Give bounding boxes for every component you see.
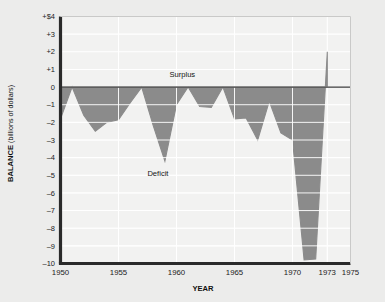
y-tick-label: –6 — [47, 189, 55, 198]
y-tick-label: –9 — [47, 242, 55, 251]
y-tick-label: +3 — [46, 30, 55, 39]
y-tick-label: –7 — [47, 206, 55, 215]
x-tick-label: 1970 — [284, 268, 302, 277]
y-tick-label: –10 — [42, 259, 55, 268]
y-tick-label: +2 — [46, 47, 55, 56]
x-tick-label: 1950 — [52, 268, 70, 277]
y-axis-title-bold: BALANCE — [6, 145, 15, 182]
y-tick-label: 0 — [51, 83, 55, 92]
annotation-surplus-label: Surplus — [169, 70, 195, 79]
y-tick-label: +$4 — [42, 12, 55, 21]
y-axis-title-text: BALANCE (billions of dollars) — [6, 85, 15, 182]
y-tick-label: –3 — [47, 136, 55, 145]
y-tick-label: –5 — [47, 171, 55, 180]
x-tick-label: 1965 — [226, 268, 244, 277]
y-tick-label: –2 — [47, 118, 55, 127]
x-tick-label: 1955 — [110, 268, 128, 277]
y-tick-label: –1 — [47, 100, 55, 109]
y-axis-title: BALANCE (billions of dollars) — [6, 85, 15, 182]
x-tick-label: 1975 — [342, 268, 360, 277]
y-tick-label: –4 — [47, 153, 55, 162]
y-axis-title-units: (billions of dollars) — [6, 85, 15, 145]
x-tick-label: 1960 — [168, 268, 186, 277]
x-tick-label: 1973 — [319, 268, 336, 277]
y-tick-label: +1 — [46, 65, 55, 74]
y-tick-label: –8 — [47, 224, 55, 233]
x-axis-title: YEAR — [192, 284, 214, 293]
balance-area-chart: +$4+3+2+10–1–2–3–4–5–6–7–8–9–10 19501955… — [0, 0, 385, 302]
chart-figure: +$4+3+2+10–1–2–3–4–5–6–7–8–9–10 19501955… — [0, 0, 385, 302]
annotation-deficit-label: Deficit — [147, 169, 169, 178]
